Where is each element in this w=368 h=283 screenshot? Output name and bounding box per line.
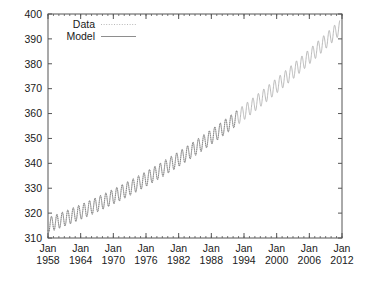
y-tick-label: 330 [24, 182, 42, 194]
x-tick-label-month: Jan [268, 242, 285, 254]
x-tick-label-month: Jan [105, 242, 122, 254]
y-tick-label: 390 [24, 33, 42, 45]
x-tick-label-year: 1982 [167, 254, 191, 266]
y-tick-label: 360 [24, 107, 42, 119]
legend-label-data: Data [73, 18, 95, 30]
x-tick-label-month: Jan [72, 242, 89, 254]
chart-background [0, 0, 368, 283]
x-tick-label-year: 1958 [36, 254, 60, 266]
x-tick-label-month: Jan [40, 242, 57, 254]
y-tick-label: 320 [24, 207, 42, 219]
y-tick-label: 400 [24, 8, 42, 20]
chart-figure: 400 390 380 370 360 350 340 330 320 310 … [0, 0, 368, 283]
x-tick-label-month: Jan [334, 242, 351, 254]
x-tick-label-month: Jan [138, 242, 155, 254]
x-tick-label-month: Jan [203, 242, 220, 254]
y-tick-label: 350 [24, 132, 42, 144]
x-tick-label-month: Jan [170, 242, 187, 254]
x-tick-label-month: Jan [301, 242, 318, 254]
y-tick-label: 380 [24, 58, 42, 70]
y-tick-label: 340 [24, 157, 42, 169]
x-tick-label-year: 1964 [69, 254, 93, 266]
x-tick-label-year: 1988 [200, 254, 224, 266]
keeling-curve-chart: 400 390 380 370 360 350 340 330 320 310 … [0, 0, 368, 283]
legend-label-model: Model [66, 30, 95, 42]
y-tick-label: 370 [24, 82, 42, 94]
x-tick-label-year: 2006 [298, 254, 322, 266]
x-tick-label-year: 2000 [265, 254, 289, 266]
x-tick-label-year: 1976 [134, 254, 158, 266]
x-tick-label-year: 1994 [232, 254, 256, 266]
x-tick-label-month: Jan [236, 242, 253, 254]
x-tick-label-year: 1970 [102, 254, 126, 266]
x-tick-label-year: 2012 [330, 254, 354, 266]
